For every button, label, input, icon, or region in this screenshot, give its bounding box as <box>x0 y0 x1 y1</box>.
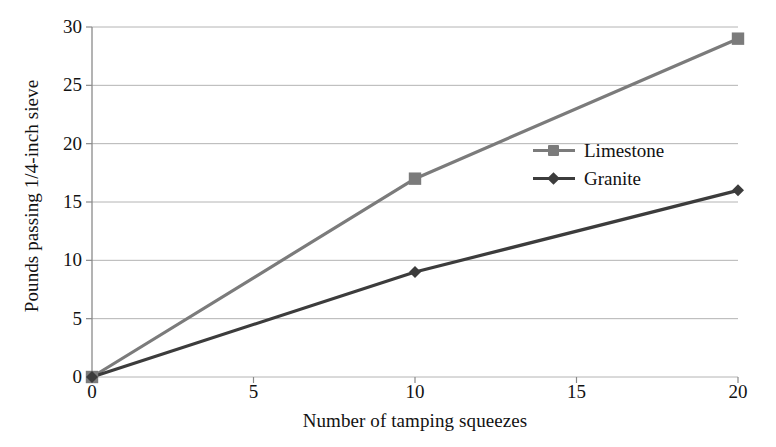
y-tick-label: 5 <box>42 309 82 328</box>
x-tick-label-wrap: 10 <box>385 382 445 402</box>
y-axis-title: Pounds passing 1/4-inch sieve <box>21 16 43 376</box>
legend-item-granite: Granite <box>533 164 683 192</box>
series-line-limestone <box>92 39 738 377</box>
x-tick-label: 20 <box>729 381 748 402</box>
square-marker-icon <box>548 145 559 156</box>
y-tick-label: 10 <box>42 250 82 269</box>
legend-key-limestone <box>533 143 575 157</box>
legend-label-limestone: Limestone <box>584 141 664 160</box>
x-tick-label: 15 <box>567 381 586 402</box>
y-tick-label: 20 <box>42 134 82 153</box>
data-point-diamond <box>732 184 744 196</box>
x-tick-label: 10 <box>406 381 425 402</box>
data-point-square <box>732 32 744 44</box>
legend-key-granite <box>533 171 575 185</box>
x-tick-label: 0 <box>87 381 97 402</box>
data-point-diamond <box>409 266 421 278</box>
y-tick-label: 15 <box>42 192 82 211</box>
y-tick-label: 25 <box>42 75 82 94</box>
x-tick-label-wrap: 20 <box>708 382 768 402</box>
x-tick-label-wrap: 5 <box>224 382 284 402</box>
legend: Limestone Granite <box>533 136 683 192</box>
y-tick-label: 30 <box>42 17 82 36</box>
x-tick-label-wrap: 15 <box>547 382 607 402</box>
x-tick-label-wrap: 0 <box>62 382 122 402</box>
plot-area <box>0 0 776 447</box>
x-tick-label: 5 <box>249 381 259 402</box>
legend-label-granite: Granite <box>584 169 641 188</box>
line-chart: Pounds passing 1/4-inch sieve Number of … <box>0 0 776 447</box>
data-point-square <box>409 172 421 184</box>
diamond-marker-icon <box>547 172 560 185</box>
x-axis-title: Number of tamping squeezes <box>92 410 738 432</box>
legend-item-limestone: Limestone <box>533 136 683 164</box>
series-line-granite <box>92 190 738 377</box>
